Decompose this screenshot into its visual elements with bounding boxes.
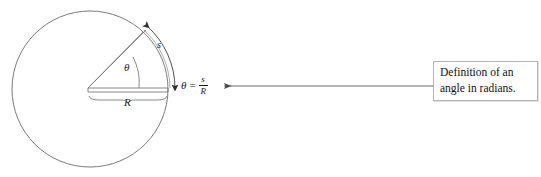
callout-box: Definition of an angle in radians. (433, 61, 538, 101)
radian-formula: θ = s R (181, 75, 208, 96)
circle-outline (12, 11, 168, 167)
formula-equals-sign: = (189, 80, 195, 91)
formula-denominator: R (199, 86, 207, 96)
formula-numerator: s (200, 75, 206, 85)
angle-theta-label: θ (124, 62, 129, 73)
formula-theta-symbol: θ (181, 80, 186, 91)
callout-line-1: Definition of an (440, 65, 531, 81)
arc-length-s-label: s (157, 40, 161, 50)
figure-canvas: θ R s θ = s R Definition of an angle in … (0, 0, 541, 177)
angle-arc (133, 57, 139, 88)
callout-line-2: angle in radians. (440, 81, 531, 97)
inclined-radius-line-outer (90, 30, 146, 86)
formula-fraction: s R (199, 75, 208, 96)
radius-r-label: R (124, 97, 131, 108)
